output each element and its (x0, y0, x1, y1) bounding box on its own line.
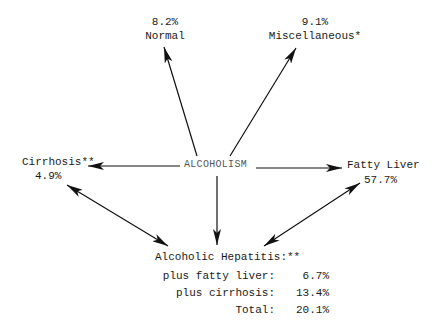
node-normal-value: 8.2% (140, 16, 190, 29)
node-cirrhosis-label: Cirrhosis** (22, 156, 95, 169)
hepatitis-total-label: Total: (150, 304, 275, 317)
hepatitis-row-label: plus cirrhosis: (150, 287, 275, 300)
hepatitis-row-value: 13.4% (285, 287, 329, 300)
hepatitis-row-label: plus fatty liver: (150, 270, 275, 283)
hepatitis-row-value: 6.7% (285, 270, 329, 283)
hepatitis-total-value: 20.1% (285, 304, 329, 317)
node-misc-value: 9.1% (265, 16, 365, 29)
arrow-to-normal (164, 47, 197, 156)
node-fatty-liver-label: Fatty Liver (347, 159, 420, 172)
arrow-fatty-hepatitis (264, 183, 360, 246)
arrow-cirrhosis-hepatitis (67, 185, 168, 246)
node-fatty-liver-value: 57.7% (364, 174, 397, 187)
node-normal-label: Normal (140, 30, 190, 43)
node-misc-label: Miscellaneous* (265, 30, 365, 43)
node-cirrhosis-value: 4.9% (35, 170, 61, 183)
node-hepatitis-label: Alcoholic Hepatitis:** (155, 251, 300, 264)
root-node-alcoholism: ALCOHOLISM (184, 159, 247, 170)
arrow-to-miscellaneous (230, 48, 296, 156)
